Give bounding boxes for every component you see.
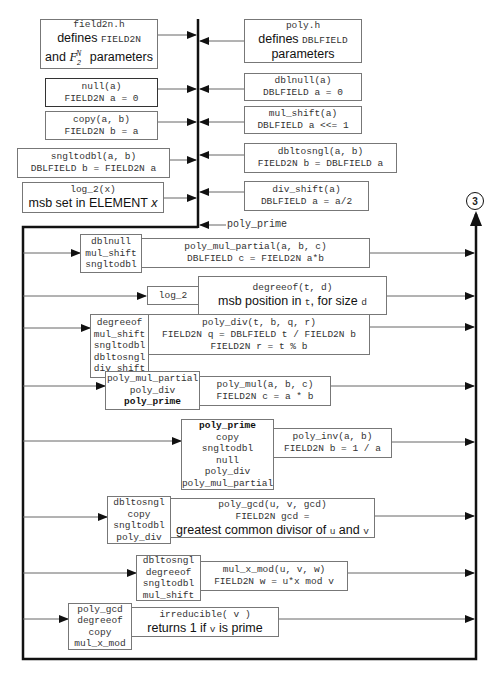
field2n-desc: defines FIELD2N bbox=[57, 31, 141, 46]
connector-3: 3 bbox=[466, 192, 484, 210]
poly-desc-line2: parameters bbox=[271, 47, 334, 62]
mul-x-mod-deps: dbltosngl degreeof sngltodbl mul_shift bbox=[136, 555, 201, 601]
poly-prime-input-label: poly_prime bbox=[227, 219, 287, 230]
field2n-title: field2n.h bbox=[73, 19, 124, 31]
poly-mul-deps: poly_mul_partial poly_div poly_prime bbox=[105, 371, 200, 410]
sngltodbl-box: sngltodbl(a, b) DBLFIELD b = FIELD2N a bbox=[17, 148, 170, 178]
field2n-header-box: field2n.h defines FIELD2N and F2N parame… bbox=[40, 19, 158, 69]
poly-desc: defines DBLFIELD bbox=[258, 32, 347, 47]
copy-box: copy(a, b) FIELD2N b = a bbox=[45, 111, 158, 140]
poly-inv-deps: poly_prime copy sngltodbl null poly_div … bbox=[181, 419, 274, 490]
irreducible-deps: poly_gcd degreeof copy mul_x_mod bbox=[68, 603, 132, 650]
poly-title: poly.h bbox=[286, 20, 320, 32]
poly-gcd-deps: dbltosngl copy sngltodbl poly_div bbox=[107, 496, 171, 544]
field2n-desc-line2: and F2N parameters bbox=[45, 46, 153, 70]
poly-mul-partial-box: poly_mul_partial(a, b, c) DBLFIELD c = F… bbox=[141, 238, 370, 268]
poly-gcd-box: poly_gcd(u, v, gcd) FIELD2N gcd = greate… bbox=[170, 498, 375, 538]
degreeof-box: degreeof(t, d) msb position in t, for si… bbox=[198, 276, 387, 315]
dblnull-box: dblnull(a) DBLFIELD a = 0 bbox=[244, 73, 362, 101]
degreeof-deps: log_2 bbox=[147, 286, 199, 305]
null-box: null(a) FIELD2N a = 0 bbox=[45, 78, 158, 107]
poly-mul-box: poly_mul(a, b, c) FIELD2N c = a * b bbox=[199, 376, 331, 406]
poly-header-box: poly.h defines DBLFIELD parameters bbox=[244, 19, 362, 63]
dbltosngl-box: dbltosngl(a, b) FIELD2N b = DBLFIELD a bbox=[244, 143, 397, 173]
poly-div-deps: degreeof mul_shift sngltodbl dbltosngl d… bbox=[90, 314, 149, 378]
poly-div-box: poly_div(t, b, q, r) FIELD2N q = DBLFIEL… bbox=[148, 314, 370, 355]
mul-shift-box: mul_shift(a) DBLFIELD a <<= 1 bbox=[244, 106, 362, 134]
irreducible-box: irreducible( v ) returns 1 if v is prime bbox=[131, 607, 279, 637]
mul-x-mod-box: mul_x_mod(u, v, w) FIELD2N w = u*x mod v bbox=[200, 561, 348, 591]
log2-box: log_2(x) msb set in ELEMENT x bbox=[22, 182, 164, 213]
poly-mul-partial-deps: dblnull mul_shift sngltodbl bbox=[80, 234, 142, 273]
poly-inv-box: poly_inv(a, b) FIELD2N b = 1 / a bbox=[273, 428, 392, 458]
div-shift-box: div_shift(a) DBLFIELD a = a/2 bbox=[244, 181, 369, 211]
